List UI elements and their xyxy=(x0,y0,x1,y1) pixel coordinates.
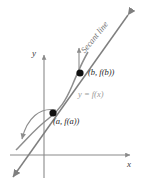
secant-line xyxy=(13,15,128,177)
function-label: y = f(x) xyxy=(78,90,104,99)
point-marker-b xyxy=(76,69,83,76)
point-a-label: (a, f(a)) xyxy=(53,117,79,126)
y-axis-label: y xyxy=(32,49,36,58)
function-curve xyxy=(16,52,88,150)
figure-canvas xyxy=(0,0,144,184)
secant-line-figure: Secant line (b, f(b)) (a, f(a)) y = f(x)… xyxy=(0,0,144,184)
x-axis-label: x xyxy=(127,160,131,169)
point-b-label: (b, f(b)) xyxy=(88,68,114,77)
